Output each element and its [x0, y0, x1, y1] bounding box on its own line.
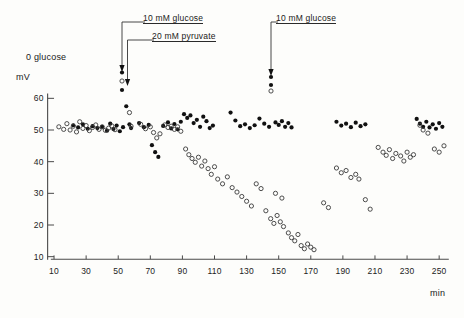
data-point-open	[184, 147, 188, 151]
data-point-filled	[150, 143, 154, 147]
data-point-open	[432, 147, 436, 151]
data-point-filled	[358, 124, 362, 128]
data-point-filled	[195, 118, 199, 122]
data-point-open	[193, 160, 197, 164]
data-point-open	[442, 144, 446, 148]
data-point-filled	[243, 122, 247, 126]
data-point-filled	[427, 125, 431, 129]
x-tick-label: 10	[44, 266, 64, 276]
data-point-open	[151, 130, 155, 134]
data-point-open	[437, 150, 441, 154]
x-tick-label: 250	[429, 266, 449, 276]
data-point-filled	[344, 122, 348, 126]
data-point-open	[203, 159, 207, 163]
data-point-filled	[257, 117, 261, 121]
data-point-open	[354, 172, 358, 176]
x-tick-label: 50	[108, 266, 128, 276]
data-point-open	[394, 151, 398, 155]
data-point-filled	[179, 120, 183, 124]
data-point-filled	[153, 150, 157, 154]
data-point-filled	[440, 125, 444, 129]
data-point-open	[312, 248, 316, 252]
data-point-filled	[156, 155, 160, 159]
plot-surface	[0, 0, 464, 318]
data-point-open	[264, 209, 268, 213]
data-point-open	[216, 177, 220, 181]
data-point-filled	[363, 122, 367, 126]
data-point-open	[200, 164, 204, 168]
data-point-open	[220, 182, 224, 186]
y-tick-label: 60	[28, 93, 44, 103]
data-point-open	[273, 191, 277, 195]
data-point-filled	[269, 83, 273, 87]
x-tick-label: 190	[333, 266, 353, 276]
data-point-open	[155, 136, 159, 140]
data-point-open	[402, 159, 406, 163]
data-point-open	[249, 204, 253, 208]
data-point-filled	[182, 112, 186, 116]
data-point-filled	[283, 125, 287, 129]
data-point-filled	[277, 123, 281, 127]
data-point-open	[384, 153, 388, 157]
data-point-open	[259, 186, 263, 190]
data-point-open	[376, 145, 380, 149]
arrowhead-icon	[125, 79, 130, 86]
data-point-open	[57, 125, 61, 129]
data-point-open	[74, 130, 78, 134]
data-point-open	[272, 221, 276, 225]
data-point-filled	[267, 125, 271, 129]
x-tick-label: 70	[140, 266, 160, 276]
data-point-open	[225, 175, 229, 179]
data-point-filled	[233, 118, 237, 122]
data-point-open	[187, 153, 191, 157]
data-point-open	[78, 120, 82, 124]
data-point-filled	[238, 124, 242, 128]
annotation-leader	[128, 40, 155, 79]
data-point-open	[357, 177, 361, 181]
data-point-open	[254, 182, 258, 186]
data-point-open	[363, 198, 367, 202]
data-point-open	[245, 199, 249, 203]
data-point-open	[302, 247, 306, 251]
data-point-open	[411, 153, 415, 157]
data-point-open	[339, 171, 343, 175]
y-tick-label: 20	[28, 220, 44, 230]
data-point-open	[190, 156, 194, 160]
data-point-open	[212, 165, 216, 169]
data-point-filled	[76, 125, 80, 129]
figure-root: 0 glucose 10 mM glucose 20 mM pyruvate 1…	[0, 0, 464, 318]
data-point-filled	[204, 119, 208, 123]
data-point-open	[230, 186, 234, 190]
y-tick-label: 30	[28, 188, 44, 198]
data-point-filled	[434, 127, 438, 131]
data-point-filled	[286, 121, 290, 125]
data-point-open	[275, 213, 279, 217]
data-point-open	[209, 172, 213, 176]
data-point-open	[94, 123, 98, 127]
data-point-open	[65, 122, 69, 126]
data-point-open	[326, 205, 330, 209]
data-point-open	[269, 217, 273, 221]
data-point-filled	[211, 123, 215, 127]
data-point-filled	[115, 123, 119, 127]
data-point-filled	[228, 110, 232, 114]
data-point-filled	[354, 121, 358, 125]
data-point-filled	[334, 120, 338, 124]
y-tick-label: 10	[28, 252, 44, 262]
data-point-filled	[198, 125, 202, 129]
data-point-open	[240, 194, 244, 198]
data-point-open	[62, 127, 66, 131]
data-point-open	[368, 207, 372, 211]
data-point-filled	[280, 119, 284, 123]
data-point-filled	[188, 113, 192, 117]
data-point-filled	[118, 129, 122, 133]
data-point-open	[349, 175, 353, 179]
data-point-open	[206, 167, 210, 171]
data-point-filled	[349, 125, 353, 129]
data-point-open	[158, 132, 162, 136]
data-point-open	[322, 201, 326, 205]
data-point-open	[196, 155, 200, 159]
annotation-leader	[122, 22, 145, 65]
data-point-filled	[248, 126, 252, 130]
data-point-open	[387, 148, 391, 152]
